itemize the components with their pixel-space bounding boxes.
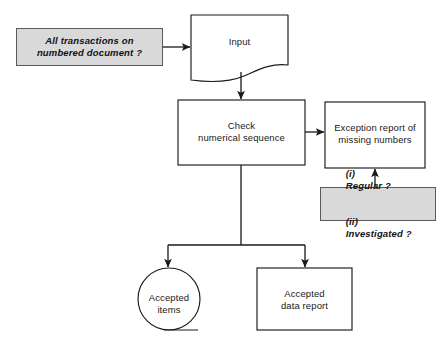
annotation-regular-text-1: Regular ? <box>346 180 391 191</box>
annotation-transactions-line1: All transactions on <box>45 35 133 47</box>
accepted-report-label: Accepted data report <box>257 288 352 312</box>
accepted-items-label: Accepted items <box>138 292 200 316</box>
exception-label: Exception report of missing numbers <box>325 122 425 146</box>
annotation-regular-text-2: Investigated ? <box>346 228 412 239</box>
annotation-regular-line1: (i) Regular ? <box>329 156 391 204</box>
annotation-transactions-line2: numbered document ? <box>37 47 142 59</box>
annotation-regular-marker-2: (ii) <box>346 216 358 227</box>
annotation-regular-marker-1: (i) <box>346 168 355 179</box>
input-label: Input <box>191 36 288 48</box>
annotation-transactions: All transactions on numbered document ? <box>16 28 163 66</box>
annotation-regular: (i) Regular ? (ii) Investigated ? <box>320 187 436 221</box>
input-shape <box>191 15 288 82</box>
flowchart-canvas: Input Check numerical sequence Exception… <box>0 0 448 354</box>
annotation-regular-line2: (ii) Investigated ? <box>329 204 412 252</box>
check-label: Check numerical sequence <box>178 120 305 144</box>
